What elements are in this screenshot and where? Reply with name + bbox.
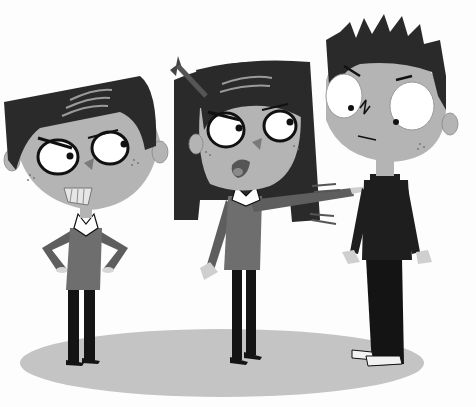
- illustration-canvas: [0, 0, 476, 407]
- angry-boy-left: [4, 76, 168, 366]
- eye: [92, 132, 128, 164]
- illustration: Cartoon illustration: three children, a …: [0, 0, 476, 407]
- eye: [264, 111, 296, 141]
- eye: [326, 74, 362, 118]
